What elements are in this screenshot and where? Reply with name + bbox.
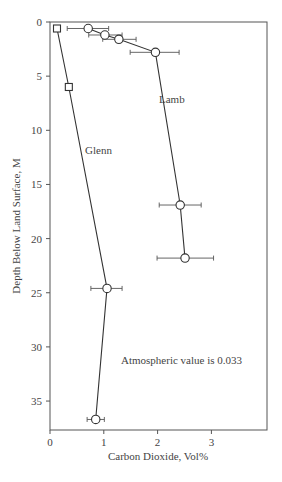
circle-marker bbox=[101, 31, 109, 39]
circle-marker bbox=[115, 35, 123, 43]
glenn-series-label: Glenn bbox=[85, 144, 112, 156]
x-tick-label: 0 bbox=[47, 436, 53, 448]
lamb-series-label: Lamb bbox=[159, 93, 185, 105]
x-tick-label: 2 bbox=[155, 436, 161, 448]
y-tick-label: 15 bbox=[31, 178, 43, 190]
x-tick-label: 3 bbox=[209, 436, 215, 448]
circle-marker bbox=[92, 415, 100, 423]
y-tick-label: 35 bbox=[31, 395, 43, 407]
y-axis-ticks: 05101520253035 bbox=[31, 16, 50, 407]
circle-marker bbox=[176, 201, 184, 209]
circle-marker bbox=[181, 254, 189, 262]
circle-marker bbox=[103, 284, 111, 292]
square-marker bbox=[65, 83, 72, 90]
y-tick-label: 10 bbox=[31, 124, 43, 136]
plot-frame bbox=[50, 22, 267, 430]
y-tick-label: 20 bbox=[31, 233, 43, 245]
square-marker bbox=[53, 25, 60, 32]
x-axis-title: Carbon Dioxide, Vol% bbox=[108, 450, 208, 462]
x-axis-ticks: 0123 bbox=[47, 430, 214, 448]
circle-marker bbox=[151, 48, 159, 56]
circle-marker bbox=[84, 24, 92, 32]
glenn-series bbox=[53, 25, 122, 424]
atmospheric-annotation: Atmospheric value is 0.033 bbox=[121, 354, 242, 366]
y-tick-label: 5 bbox=[37, 70, 43, 82]
depth-co2-chart: 05101520253035 0123 Lamb Glenn Atmospher… bbox=[0, 0, 282, 482]
x-tick-label: 1 bbox=[101, 436, 107, 448]
y-tick-label: 30 bbox=[31, 341, 43, 353]
y-tick-label: 25 bbox=[31, 287, 43, 299]
y-axis-title: Depth Below Land Surface, M bbox=[10, 158, 22, 294]
y-tick-label: 0 bbox=[37, 16, 43, 28]
